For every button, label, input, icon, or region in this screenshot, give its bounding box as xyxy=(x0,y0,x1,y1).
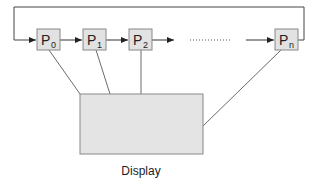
processor-p2: P 2 xyxy=(129,29,152,50)
svg-text:n: n xyxy=(289,40,294,50)
link-p1-display xyxy=(96,50,110,94)
svg-text:0: 0 xyxy=(51,40,56,50)
link-p0-display xyxy=(49,50,80,94)
svg-text:P: P xyxy=(279,32,288,48)
processor-pn: P n xyxy=(275,29,298,50)
processor-p1: P 1 xyxy=(83,29,106,50)
processor-p0: P 0 xyxy=(37,29,60,50)
svg-text:2: 2 xyxy=(143,40,148,50)
svg-text:P: P xyxy=(87,32,96,48)
pipeline-diagram: P 0 P 1 P 2 P n Display xyxy=(0,0,319,185)
svg-text:P: P xyxy=(133,32,142,48)
link-pn-display xyxy=(203,50,281,126)
display-box xyxy=(80,94,203,154)
display-label: Display xyxy=(121,164,160,178)
svg-text:1: 1 xyxy=(97,40,102,50)
svg-text:P: P xyxy=(41,32,50,48)
